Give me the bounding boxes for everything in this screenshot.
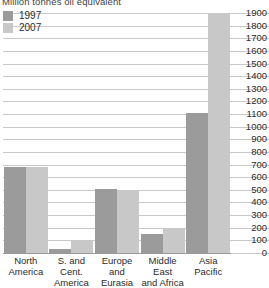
y-axis-tick-label: 1400 <box>246 71 267 81</box>
bar-group <box>49 13 95 253</box>
legend-swatch-icon <box>3 23 13 33</box>
bar <box>141 234 163 253</box>
bar <box>71 240 93 253</box>
x-axis-tick-label: S. and Cent.America <box>49 255 95 288</box>
plot-area <box>3 13 231 253</box>
x-axis: NorthAmericaS. and Cent.AmericaEuropeand… <box>3 255 231 280</box>
y-axis-tick-label: 1700 <box>246 33 267 43</box>
bar-group <box>140 13 186 253</box>
bar <box>186 113 208 253</box>
y-axis-tick-label: 1800 <box>246 21 267 31</box>
x-axis-label-line: Eurasia <box>94 277 140 288</box>
legend-item-label: 2007 <box>19 22 41 33</box>
legend-item-label: 1997 <box>19 10 41 21</box>
x-axis-tick-label: EuropeandEurasia <box>94 255 140 288</box>
y-axis-tick-label: 1000 <box>246 122 267 132</box>
y-axis-tick-label: 1600 <box>246 46 267 56</box>
x-axis-label-line: Middle East <box>140 255 186 277</box>
chart-legend: 19972007 <box>3 10 41 34</box>
x-axis-label-line: North <box>3 255 49 266</box>
x-axis-label-line: S. and Cent. <box>49 255 95 277</box>
y-axis-tick-label: 200 <box>251 223 267 233</box>
x-axis-label-line: Asia <box>185 255 231 266</box>
x-axis-label-line: Pacific <box>185 266 231 277</box>
y-axis-tick-label: 100 <box>251 235 267 245</box>
bar-group <box>3 13 49 253</box>
bar <box>117 191 139 253</box>
legend-item: 1997 <box>3 10 41 21</box>
y-axis: 1900180017001600150014001300120011001000… <box>231 13 269 253</box>
bar <box>26 167 48 253</box>
x-axis-label-line: America <box>49 277 95 288</box>
chart-title: Million tonnes oil equivalent <box>2 0 121 7</box>
y-axis-tick-label: 1300 <box>246 84 267 94</box>
y-axis-tick-label: 300 <box>251 210 267 220</box>
y-axis-tick-label: 500 <box>251 185 267 195</box>
bar-series-container <box>3 13 231 253</box>
y-axis-tick-label: 1900 <box>246 8 267 18</box>
bar-group <box>94 13 140 253</box>
y-axis-tick-label: 900 <box>251 134 267 144</box>
bar <box>4 167 26 253</box>
x-axis-tick-label: AsiaPacific <box>185 255 231 277</box>
y-axis-tick-label: 1500 <box>246 59 267 69</box>
y-axis-tick-label: 1100 <box>247 109 267 119</box>
bar <box>49 249 71 253</box>
bar <box>163 228 185 253</box>
bar <box>208 14 230 253</box>
x-axis-label-line: and <box>94 266 140 277</box>
y-axis-tick-label: 700 <box>251 160 267 170</box>
bar-group <box>185 13 231 253</box>
y-axis-tick-label: 0 <box>262 248 267 258</box>
legend-item: 2007 <box>3 22 41 33</box>
bar <box>95 189 117 253</box>
axis-baseline <box>3 253 231 254</box>
x-axis-tick-label: Middle Eastand Africa <box>140 255 186 288</box>
y-axis-tick-label: 400 <box>251 197 267 207</box>
x-axis-tick-label: NorthAmerica <box>3 255 49 277</box>
y-axis-tick-label: 1200 <box>246 96 267 106</box>
x-axis-label-line: and Africa <box>140 277 186 288</box>
y-axis-tick-label: 800 <box>251 147 267 157</box>
x-axis-label-line: Europe <box>94 255 140 266</box>
y-axis-tick-label: 600 <box>251 172 267 182</box>
legend-swatch-icon <box>3 11 13 21</box>
x-axis-label-line: America <box>3 266 49 277</box>
